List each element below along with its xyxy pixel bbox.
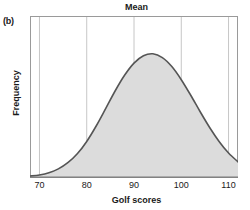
chart-figure: (b) Mean Frequency 708090100110 Golf sco… [0, 0, 250, 210]
chart-title: Mean [0, 2, 250, 12]
y-axis-label: Frequency [11, 53, 21, 133]
distribution-curve-svg [30, 16, 238, 178]
panel-label: (b) [3, 16, 14, 26]
plot-area [30, 16, 238, 178]
x-tick-90: 90 [119, 180, 149, 190]
x-tick-110: 110 [214, 180, 244, 190]
x-tick-100: 100 [166, 180, 196, 190]
x-tick-70: 70 [24, 180, 54, 190]
x-tick-80: 80 [72, 180, 102, 190]
x-axis-label: Golf scores [0, 195, 250, 205]
